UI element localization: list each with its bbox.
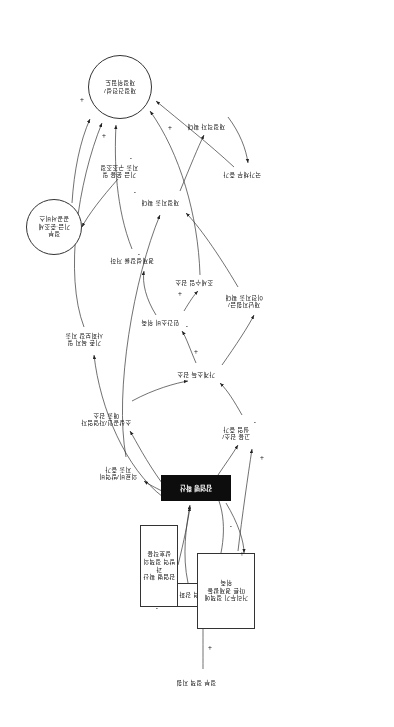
edge-consume-growth: [144, 271, 157, 315]
node-fund-restructuring: 기금 운용 및 지출 구조조정: [88, 164, 150, 179]
polarity-sign: +: [240, 550, 244, 557]
node-small-business: 소상공인/자영업자 매출 감소: [74, 412, 138, 427]
edge-debt-fiscal: [156, 101, 234, 167]
node-national-debt: 국가채무 증가: [214, 172, 270, 179]
edge-consume-tax: [184, 291, 198, 311]
edge-fund-fiscal: [72, 119, 90, 203]
node-fiscal-deficit: 재정적자 확대: [178, 124, 234, 131]
polarity-sign: +: [194, 348, 198, 355]
polarity-sign: +: [178, 290, 182, 297]
polarity-sign: -: [230, 524, 232, 531]
node-employment: 고용 감소/ 실업 증가: [208, 426, 264, 441]
polarity-sign: -: [130, 156, 132, 163]
polarity-sign: -: [156, 606, 158, 613]
edge-employ-income: [220, 383, 242, 415]
edge-transfer-budget: [186, 213, 238, 287]
node-fiscal-soundness[interactable]: 재정건전성/ 재정위험도: [88, 55, 152, 119]
edge-budget-deficit: [180, 135, 204, 191]
polarity-sign: +: [260, 454, 264, 461]
node-welfare-spending: 기존 복지 및 사회보장 지출: [54, 332, 114, 347]
polarity-sign: +: [208, 644, 212, 651]
node-tax-revenue: 조세수입 감소: [166, 280, 222, 287]
edge-growth-fiscal: [115, 125, 132, 249]
node-outbreak[interactable]: 감염병 확산: [161, 475, 231, 501]
node-transfer-payments: 재난지원금/ 이전지출 확대: [214, 294, 274, 309]
edge-income-consume: [182, 331, 196, 363]
edge-tax-fiscal: [150, 111, 200, 275]
polarity-sign: -: [134, 190, 136, 197]
polarity-sign: -: [186, 324, 188, 331]
node-interaction-note[interactable]: 감염병 확산과 방역 정책의 상호작용: [140, 525, 178, 607]
polarity-sign: -: [138, 252, 140, 259]
node-fiscal-spending: 재정지출 확대: [132, 200, 188, 207]
edge-outbreak-employ: [218, 445, 238, 475]
edge-quarantine-outbreak: [185, 505, 190, 583]
polarity-sign: +: [168, 124, 172, 131]
edge-policy-fund: [82, 179, 118, 227]
node-consumption: 민간소비 위축: [132, 320, 188, 327]
edge-distance-employ: [238, 449, 252, 551]
rotated-diagram-layer: 감염병 확산 방역 강화 정부 정책 지원 거리두기 정책에 따른 경제활동 위…: [0, 0, 394, 727]
polarity-sign: +: [102, 132, 106, 139]
edge-biz-income: [132, 381, 188, 401]
node-growth-rate: 경제성장률 저하: [102, 258, 162, 265]
node-government-fund[interactable]: 정부 기금·준조세 공공서비스: [26, 199, 82, 255]
node-support: 정부 정책 지원: [161, 680, 231, 687]
edge-income-transfer: [222, 315, 254, 365]
node-distance[interactable]: 거리두기 정책에 따른 경제활동 위축: [197, 553, 255, 629]
polarity-sign: +: [80, 96, 84, 103]
polarity-sign: -: [254, 420, 256, 427]
diagram-canvas: 감염병 확산 방역 강화 정부 정책 지원 거리두기 정책에 따른 경제활동 위…: [0, 0, 394, 727]
node-medical-cost: 의료비/방역비 지출 증가: [88, 466, 148, 481]
node-household-income: 가계소득 감소: [168, 372, 224, 379]
